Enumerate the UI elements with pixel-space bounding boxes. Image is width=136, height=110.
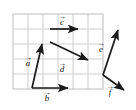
vector-overarrow-c: → — [58, 12, 66, 21]
vector-diagram-canvas: a→b→c→d→e→f→ — [0, 0, 136, 110]
vector-overarrow-f: → — [106, 82, 114, 91]
vector-overarrow-a: → — [24, 53, 32, 62]
vector-overarrow-e: → — [97, 39, 105, 48]
vector-diagram-figure: a→b→c→d→e→f→ — [0, 0, 136, 110]
grid-group — [13, 14, 103, 89]
vector-overarrow-b: → — [43, 88, 51, 97]
vector-arrow-e — [103, 30, 118, 75]
vector-overarrow-d: → — [58, 59, 66, 68]
